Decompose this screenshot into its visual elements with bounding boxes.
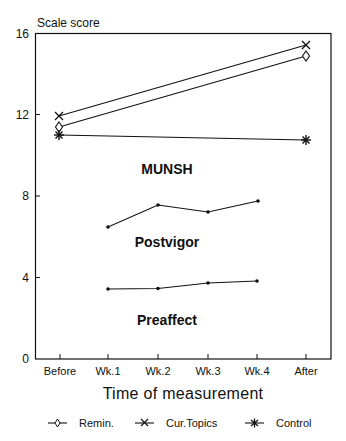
x-axis-title: Time of measurement (103, 385, 264, 402)
legend-item-control: Control (245, 417, 311, 429)
diamond-marker-icon (55, 419, 60, 427)
panel-label-postvigor: Postvigor (135, 234, 200, 250)
series-control (54, 130, 311, 145)
legend-item-cur-topics: Cur.Topics (135, 417, 218, 429)
series-postvigor (106, 199, 260, 229)
x-tick-before: Before (44, 365, 76, 377)
y-axis: 0 4 8 12 16 (16, 27, 40, 366)
x-tick-wk2: Wk.2 (145, 365, 170, 377)
x-axis: Before Wk.1 Wk.2 Wk.3 Wk.4 After (44, 354, 318, 377)
y-axis-label: Scale score (37, 16, 100, 30)
plot-frame (36, 34, 332, 360)
legend-label-remin: Remin. (79, 417, 114, 429)
dot-marker-icon (106, 199, 260, 229)
x-tick-wk3: Wk.3 (195, 365, 220, 377)
panel-label-munsh: MUNSH (141, 161, 192, 177)
x-tick-after: After (294, 365, 318, 377)
y-tick-4: 4 (22, 271, 29, 285)
x-tick-wk1: Wk.1 (95, 365, 120, 377)
series-remin (56, 51, 310, 132)
x-tick-wk4: Wk.4 (244, 365, 269, 377)
panel-label-preaffect: Preaffect (137, 312, 197, 328)
series-preaffect (106, 279, 259, 291)
legend-label-cur-topics: Cur.Topics (166, 417, 218, 429)
series-cur-topics (55, 41, 310, 120)
y-tick-12: 12 (16, 108, 30, 122)
legend: Remin. Cur.Topics Control (48, 417, 311, 429)
y-tick-8: 8 (22, 189, 29, 203)
legend-item-remin: Remin. (48, 417, 114, 429)
y-tick-16: 16 (16, 27, 30, 41)
line-chart: Scale score 0 4 8 12 16 Before Wk.1 Wk.2… (0, 0, 346, 441)
y-tick-0: 0 (22, 352, 29, 366)
legend-label-control: Control (276, 417, 311, 429)
